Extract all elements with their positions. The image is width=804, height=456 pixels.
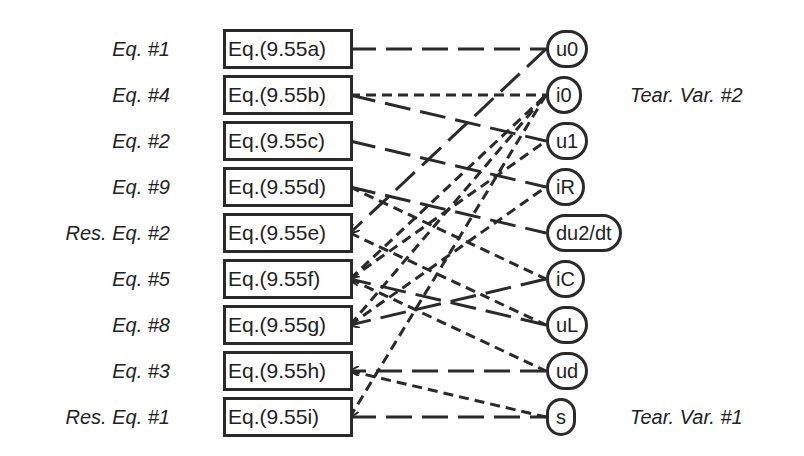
equation-box: Eq.(9.55b) — [223, 75, 353, 115]
equation-label: Res. Eq. #1 — [0, 405, 170, 429]
equation-label: Res. Eq. #2 — [0, 221, 170, 245]
edge-f-i0 — [350, 95, 546, 279]
equation-box: Eq.(9.55d) — [223, 167, 353, 207]
edge-b-u1 — [350, 95, 546, 141]
equation-box: Eq.(9.55h) — [223, 351, 353, 391]
equation-label: Eq. #8 — [0, 313, 170, 337]
variable-node: u1 — [546, 122, 588, 160]
equation-box: Eq.(9.55a) — [223, 29, 353, 69]
equation-label: Eq. #2 — [0, 129, 170, 153]
variable-node: iC — [546, 260, 585, 298]
tear-var-2-label: Tear. Var. #2 — [630, 83, 743, 107]
equation-label: Eq. #9 — [0, 175, 170, 199]
equation-box: Eq.(9.55g) — [223, 305, 353, 345]
edge-g-iC — [350, 279, 546, 325]
equation-box: Eq.(9.55f) — [223, 259, 353, 299]
equation-box: Eq.(9.55c) — [223, 121, 353, 161]
edge-f-ud — [350, 279, 546, 371]
edge-d-iC — [350, 187, 546, 279]
equation-label: Eq. #3 — [0, 359, 170, 383]
edge-e-uL — [350, 233, 546, 325]
variable-node: ud — [546, 352, 588, 390]
variable-node: i0 — [546, 76, 582, 114]
variable-node: iR — [546, 168, 585, 206]
equation-label: Eq. #5 — [0, 267, 170, 291]
variable-node: uL — [546, 306, 588, 344]
variable-node: s — [546, 398, 576, 436]
tear-var-1-label: Tear. Var. #1 — [630, 405, 743, 429]
variable-node: u0 — [546, 30, 588, 68]
equation-label: Eq. #4 — [0, 83, 170, 107]
edge-f-uL — [350, 279, 546, 325]
equation-label: Eq. #1 — [0, 37, 170, 61]
equation-box: Eq.(9.55e) — [223, 213, 353, 253]
variable-node: du2/dt — [546, 214, 622, 252]
equation-box: Eq.(9.55i) — [223, 397, 353, 437]
edge-g-i0 — [350, 95, 546, 325]
edge-h-s — [350, 371, 546, 417]
edge-c-iR — [350, 141, 546, 187]
